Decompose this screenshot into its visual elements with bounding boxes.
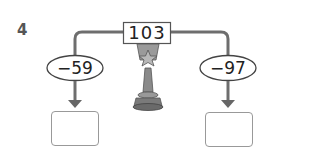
answer-box-right[interactable] <box>205 112 253 147</box>
start-value: 103 <box>124 23 170 43</box>
answer-box-left[interactable] <box>51 111 99 146</box>
trophy-icon <box>133 44 163 111</box>
operation-left: −59 <box>47 57 103 79</box>
operation-right: −97 <box>200 57 256 79</box>
